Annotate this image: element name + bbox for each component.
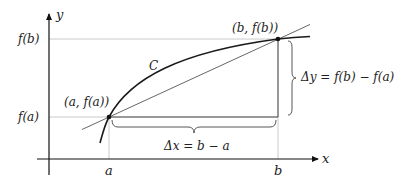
point-b-label: (b, f(b)) [232,21,278,35]
delta-x-brace [112,120,276,133]
tick-label-fb: f(b) [17,32,40,46]
secant-line [82,25,310,130]
x-axis-label: x [322,151,330,166]
tick-label-a: a [105,163,113,178]
point-b [276,37,281,42]
tick-label-fa: f(a) [17,110,39,124]
point-a [107,115,112,120]
delta-y-brace [288,41,296,115]
curve-label: C [149,59,158,73]
mean-value-diagram: y x f(b) f(a) a b (a, f(a)) (b, f(b)) C … [0,0,408,187]
tick-label-b: b [274,163,282,178]
delta-y-label: Δy = f(b) − f(a) [300,70,395,84]
point-a-label: (a, f(a)) [64,95,109,109]
y-axis-label: y [55,7,64,22]
delta-x-label: Δx = b − a [163,139,230,153]
